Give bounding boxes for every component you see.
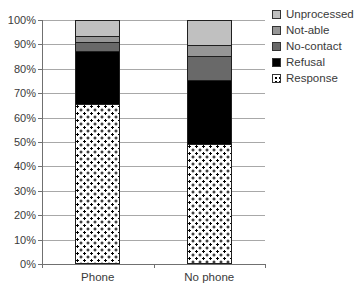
y-axis-tick xyxy=(38,166,42,167)
legend-item: Response xyxy=(272,70,354,86)
legend-swatch-no-contact xyxy=(272,42,281,51)
y-axis-tick-label: 70% xyxy=(0,87,36,99)
y-axis-tick xyxy=(38,215,42,216)
x-axis-tick xyxy=(42,264,43,268)
y-axis-tick xyxy=(38,44,42,45)
legend-swatch-unprocessed xyxy=(272,10,281,19)
bar-no-phone xyxy=(187,20,232,264)
bar-segment-response xyxy=(188,144,231,263)
y-axis-tick xyxy=(38,142,42,143)
legend-label: Not-able xyxy=(286,24,329,37)
y-axis-tick-label: 40% xyxy=(0,160,36,172)
legend-swatch-refusal xyxy=(272,58,281,67)
bar-segment-unprocessed xyxy=(188,21,231,45)
x-axis-category-label: No phone xyxy=(164,271,254,284)
x-axis-tick xyxy=(265,264,266,268)
legend-label: Response xyxy=(286,72,338,85)
legend: UnprocessedNot-ableNo-contactRefusalResp… xyxy=(272,6,354,86)
y-axis-tick xyxy=(38,191,42,192)
y-axis-tick-label: 30% xyxy=(0,185,36,197)
bar-segment-response xyxy=(76,104,119,263)
y-axis-tick-label: 20% xyxy=(0,209,36,221)
x-axis-tick xyxy=(154,264,155,268)
legend-item: Refusal xyxy=(272,54,354,70)
y-axis-tick-label: 100% xyxy=(0,14,36,26)
bar-segment-unprocessed xyxy=(76,21,119,36)
x-axis-category-label: Phone xyxy=(53,271,143,284)
y-axis-tick xyxy=(38,118,42,119)
y-axis-tick xyxy=(38,93,42,94)
legend-label: No-contact xyxy=(286,40,342,53)
y-axis-tick xyxy=(38,20,42,21)
y-axis-tick-label: 50% xyxy=(0,136,36,148)
legend-item: No-contact xyxy=(272,38,354,54)
bar-phone xyxy=(75,20,120,264)
bar-segment-refusal xyxy=(76,51,119,104)
stacked-bar-chart: 0%10%20%30%40%50%60%70%80%90%100%PhoneNo… xyxy=(0,0,356,297)
legend-item: Not-able xyxy=(272,22,354,38)
bar-segment-no-contact xyxy=(188,56,231,80)
y-axis-tick-label: 10% xyxy=(0,234,36,246)
y-axis-tick-label: 80% xyxy=(0,63,36,75)
bar-segment-refusal xyxy=(188,80,231,144)
legend-label: Refusal xyxy=(286,56,325,69)
y-axis-tick xyxy=(38,240,42,241)
y-axis-tick-label: 60% xyxy=(0,112,36,124)
legend-item: Unprocessed xyxy=(272,6,354,22)
legend-label: Unprocessed xyxy=(286,8,354,21)
legend-swatch-response xyxy=(272,74,281,83)
y-axis-line xyxy=(42,20,43,265)
legend-swatch-not-able xyxy=(272,26,281,35)
bar-segment-no-contact xyxy=(76,42,119,52)
bar-segment-not-able xyxy=(188,45,231,56)
y-axis-tick-label: 0% xyxy=(0,258,36,270)
y-axis-tick xyxy=(38,69,42,70)
y-axis-tick-label: 90% xyxy=(0,38,36,50)
